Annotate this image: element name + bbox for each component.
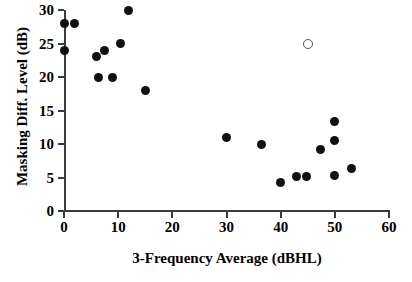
data-point — [100, 46, 109, 55]
data-point — [303, 39, 313, 49]
x-tick — [388, 212, 390, 218]
x-axis-title: 3-Frequency Average (dBHL) — [64, 250, 390, 267]
y-axis-title: Masking Diff. Level (dB) — [14, 2, 31, 212]
data-point — [94, 73, 103, 82]
scatter-plot-figure: 051015202530 0102030405060 Masking Diff.… — [0, 0, 412, 282]
data-point — [257, 140, 266, 149]
data-point — [276, 178, 285, 187]
x-tick-label: 40 — [261, 220, 301, 235]
x-tick-label: 60 — [369, 220, 409, 235]
x-tick — [334, 212, 336, 218]
data-point — [141, 86, 150, 95]
data-point — [347, 164, 356, 173]
plot-area — [64, 10, 389, 211]
x-tick — [117, 212, 119, 218]
x-tick — [171, 212, 173, 218]
x-tick-label: 20 — [152, 220, 192, 235]
data-point — [222, 133, 231, 142]
data-point — [116, 39, 125, 48]
data-point — [124, 6, 133, 15]
x-tick-label: 50 — [315, 220, 355, 235]
x-tick-label: 0 — [44, 220, 84, 235]
x-tick — [280, 212, 282, 218]
x-tick-label: 10 — [98, 220, 138, 235]
data-point — [302, 172, 311, 181]
data-point — [330, 117, 339, 126]
x-tick — [63, 212, 65, 218]
data-point — [108, 73, 117, 82]
data-point — [60, 19, 69, 28]
data-point — [60, 46, 69, 55]
x-tick-label: 30 — [207, 220, 247, 235]
x-tick — [226, 212, 228, 218]
